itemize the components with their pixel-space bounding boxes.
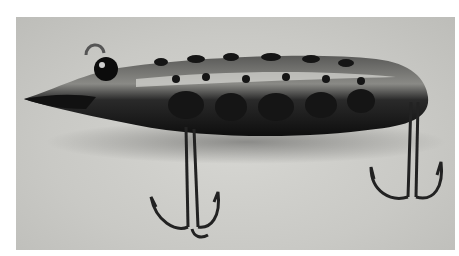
lure-photo — [16, 17, 455, 250]
fishing-lure-illustration — [16, 17, 455, 250]
line-tie-eye — [86, 45, 104, 55]
eye-icon — [94, 57, 118, 81]
eye-highlight — [99, 62, 105, 68]
